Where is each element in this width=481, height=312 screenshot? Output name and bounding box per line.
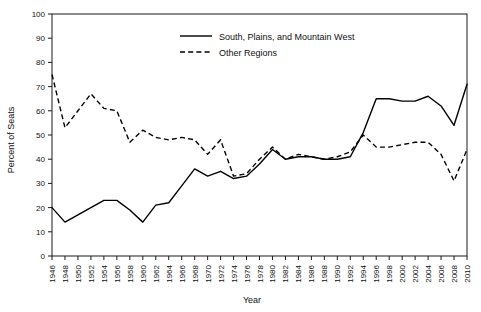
y-tick-label: 0 bbox=[41, 252, 46, 261]
x-tick-label: 1960 bbox=[139, 264, 148, 282]
y-tick-label: 40 bbox=[36, 155, 45, 164]
x-tick-label: 1966 bbox=[178, 264, 187, 282]
x-tick-label: 2002 bbox=[411, 264, 420, 282]
x-tick-label: 1948 bbox=[61, 264, 70, 282]
x-tick-label: 1970 bbox=[204, 264, 213, 282]
y-tick-label: 90 bbox=[36, 34, 45, 43]
x-tick-label: 2006 bbox=[437, 264, 446, 282]
x-tick-label: 1986 bbox=[307, 264, 316, 282]
y-tick-label: 50 bbox=[36, 131, 45, 140]
chart-container: 0102030405060708090100 19461948195019521… bbox=[0, 0, 481, 312]
y-tick-label: 70 bbox=[36, 83, 45, 92]
x-tick-label: 2004 bbox=[424, 264, 433, 282]
x-tick-label: 2000 bbox=[398, 264, 407, 282]
x-tick-label: 1992 bbox=[346, 264, 355, 282]
x-tick-label: 2010 bbox=[463, 264, 472, 282]
x-tick-label: 1996 bbox=[372, 264, 381, 282]
x-tick-label: 1962 bbox=[152, 264, 161, 282]
x-tick-label: 1956 bbox=[113, 264, 122, 282]
y-tick-label: 20 bbox=[36, 204, 45, 213]
x-tick-label: 1982 bbox=[281, 264, 290, 282]
x-axis-title: Year bbox=[243, 295, 261, 305]
x-tick-label: 1978 bbox=[256, 264, 265, 282]
y-tick-label: 30 bbox=[36, 179, 45, 188]
line-chart: 0102030405060708090100 19461948195019521… bbox=[0, 0, 481, 312]
x-tick-label: 1984 bbox=[294, 264, 303, 282]
legend-label: South, Plains, and Mountain West bbox=[219, 32, 355, 42]
x-tick-label: 1968 bbox=[191, 264, 200, 282]
x-tick-label: 2008 bbox=[450, 264, 459, 282]
x-tick-label: 1988 bbox=[320, 264, 329, 282]
x-tick-label: 1972 bbox=[217, 264, 226, 282]
y-tick-label: 60 bbox=[36, 107, 45, 116]
x-tick-label: 1994 bbox=[359, 264, 368, 282]
y-axis-title: Percent of Seats bbox=[6, 106, 16, 173]
x-tick-label: 1952 bbox=[87, 264, 96, 282]
x-tick-label: 1974 bbox=[230, 264, 239, 282]
y-tick-label: 80 bbox=[36, 58, 45, 67]
legend-label: Other Regions bbox=[219, 48, 278, 58]
x-tick-label: 1950 bbox=[74, 264, 83, 282]
y-tick-label: 10 bbox=[36, 228, 45, 237]
x-tick-label: 1990 bbox=[333, 264, 342, 282]
x-tick-label: 1958 bbox=[126, 264, 135, 282]
x-tick-label: 1946 bbox=[48, 264, 57, 282]
x-tick-label: 1998 bbox=[385, 264, 394, 282]
x-tick-label: 1954 bbox=[100, 264, 109, 282]
x-tick-label: 1980 bbox=[268, 264, 277, 282]
y-tick-label: 100 bbox=[32, 10, 46, 19]
x-tick-label: 1964 bbox=[165, 264, 174, 282]
x-tick-label: 1976 bbox=[243, 264, 252, 282]
